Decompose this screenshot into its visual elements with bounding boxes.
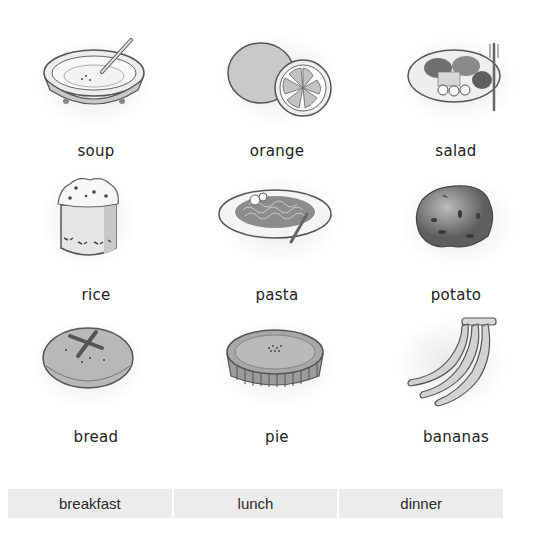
meal-category-lunch: lunch	[174, 489, 338, 518]
meal-category-breakfast: breakfast	[8, 489, 172, 518]
food-item-potato: potato	[366, 170, 546, 310]
food-item-salad: salad	[366, 28, 546, 168]
food-item-orange: orange	[187, 28, 367, 168]
bananas-icon	[366, 314, 546, 424]
meal-category-dinner: dinner	[339, 489, 503, 518]
orange-icon	[187, 28, 367, 138]
rice-bowl-icon	[6, 170, 186, 280]
food-item-soup: soup	[6, 28, 186, 168]
salad-plate-icon	[366, 28, 546, 138]
food-item-pie: pie	[187, 314, 367, 454]
food-label: salad	[366, 142, 546, 160]
food-label: rice	[6, 286, 186, 304]
food-item-bread: bread	[6, 314, 186, 454]
pasta-plate-icon	[187, 170, 367, 280]
food-label: soup	[6, 142, 186, 160]
food-label: pie	[187, 428, 367, 446]
food-label: bananas	[366, 428, 546, 446]
soup-bowl-icon	[6, 28, 186, 138]
food-label: potato	[366, 286, 546, 304]
food-item-pasta: pasta	[187, 170, 367, 310]
food-item-bananas: bananas	[366, 314, 546, 454]
pie-icon	[187, 314, 367, 424]
food-item-rice: rice	[6, 170, 186, 310]
food-label: pasta	[187, 286, 367, 304]
meal-category-row: breakfast lunch dinner	[8, 489, 503, 518]
food-label: orange	[187, 142, 367, 160]
potato-icon	[366, 170, 546, 280]
food-label: bread	[6, 428, 186, 446]
bread-loaf-icon	[6, 314, 186, 424]
